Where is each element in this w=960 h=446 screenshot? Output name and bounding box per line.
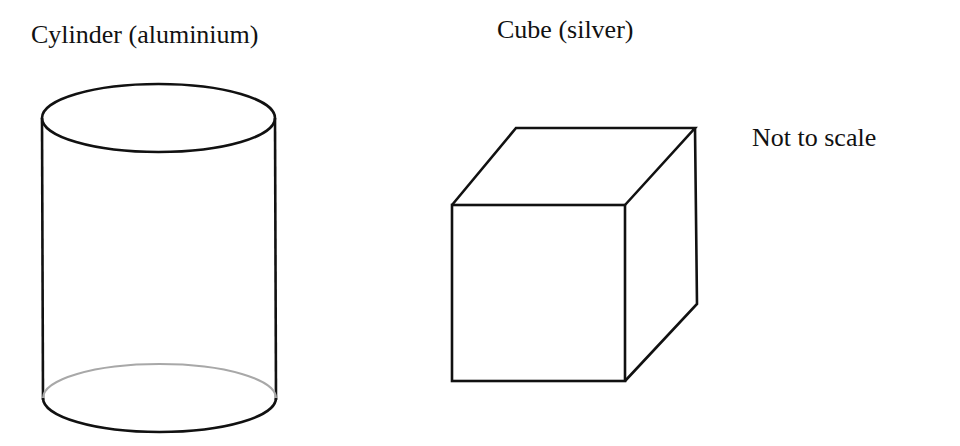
- cylinder-top-ellipse: [42, 84, 275, 152]
- cylinder-bottom-hidden-arc: [43, 364, 276, 398]
- cube-front-face: [452, 205, 625, 381]
- cylinder-right-side: [275, 118, 276, 400]
- cube-drawing: [452, 128, 697, 381]
- cylinder-drawing: [42, 84, 276, 432]
- cube-top-face: [452, 128, 695, 205]
- cylinder-left-side: [42, 118, 43, 400]
- diagram-canvas: [0, 0, 960, 446]
- cylinder-bottom-front-arc: [43, 398, 276, 432]
